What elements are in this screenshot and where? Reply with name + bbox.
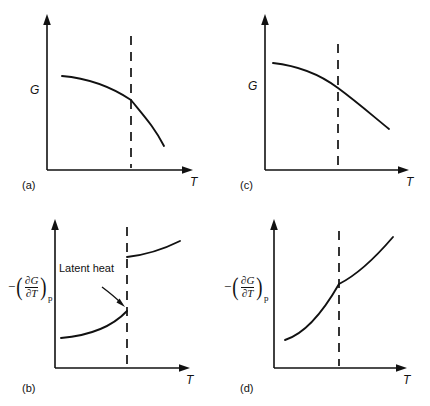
- panel-b-derivative-fraction: ∂G ∂T: [24, 275, 39, 299]
- panel-a-curve-low-temperature: [62, 76, 131, 100]
- panel-d-derivative-denominator: ∂T: [241, 287, 255, 300]
- panel-d-label: (d): [240, 383, 253, 394]
- panel-b-curve-high-temperature: [127, 241, 180, 257]
- panel-b-x-axis-label: T: [186, 374, 193, 386]
- panel-b-paren-close: ): [41, 276, 47, 298]
- panel-a-y-axis-label: G: [30, 84, 39, 96]
- panel-c-x-axis-label: T: [406, 176, 413, 188]
- panel-d-plot: [215, 203, 430, 406]
- panel-b-minus-sign: −: [8, 279, 15, 295]
- panel-a-label: (a): [22, 180, 35, 191]
- panel-a-y-axis-arrowhead: [43, 14, 51, 25]
- panel-d-minus-sign: −: [224, 279, 231, 295]
- panel-d-paren-open: (: [233, 276, 239, 298]
- panel-c: G T (c): [215, 0, 430, 203]
- panel-d-derivative-numerator: ∂G: [240, 275, 255, 287]
- panel-b-y-axis-label: − ( ∂G ∂T ) p: [8, 275, 53, 299]
- panel-a-plot: [0, 0, 215, 203]
- latent-heat-annotation-label: Latent heat: [59, 263, 114, 274]
- panel-d-paren-close: ): [257, 276, 263, 298]
- panel-d-derivative-fraction: ∂G ∂T: [240, 275, 255, 299]
- panel-d-pressure-subscript: p: [264, 293, 269, 303]
- panel-b-derivative-denominator: ∂T: [25, 287, 39, 300]
- panel-a-x-axis-arrowhead: [182, 166, 193, 174]
- panel-d-x-axis-arrowhead: [396, 364, 407, 372]
- panel-a-curve-high-temperature: [131, 100, 164, 146]
- panel-b-x-axis-arrowhead: [179, 364, 190, 372]
- panel-d: − ( ∂G ∂T ) p T (d): [215, 203, 430, 406]
- panel-c-plot: [215, 0, 430, 203]
- panel-b-paren-open: (: [17, 276, 23, 298]
- panel-d-curve-high-temperature: [339, 237, 393, 284]
- panel-b: − ( ∂G ∂T ) p Latent heat T (b): [0, 203, 215, 406]
- panel-c-x-axis-arrowhead: [398, 166, 409, 174]
- panel-d-y-axis-label: − ( ∂G ∂T ) p: [224, 275, 269, 299]
- panel-b-plot: [0, 203, 215, 406]
- panel-b-curve-low-temperature: [61, 311, 127, 338]
- panel-c-curve: [273, 63, 389, 129]
- panel-c-y-axis-label: G: [248, 80, 257, 92]
- panel-d-y-axis-arrowhead: [270, 219, 278, 230]
- panel-c-y-axis-arrowhead: [261, 14, 269, 25]
- panel-b-derivative-numerator: ∂G: [24, 275, 39, 287]
- panel-a: G T (a): [0, 0, 215, 203]
- panel-d-curve-low-temperature: [285, 284, 339, 340]
- figure-root: G T (a) G T (c): [0, 0, 430, 406]
- panel-b-pressure-subscript: p: [48, 293, 53, 303]
- panel-b-y-axis-arrowhead: [51, 219, 59, 230]
- panel-a-x-axis-label: T: [190, 176, 197, 188]
- panel-b-label: (b): [22, 383, 35, 394]
- panel-c-label: (c): [240, 180, 253, 191]
- panel-d-x-axis-label: T: [403, 374, 410, 386]
